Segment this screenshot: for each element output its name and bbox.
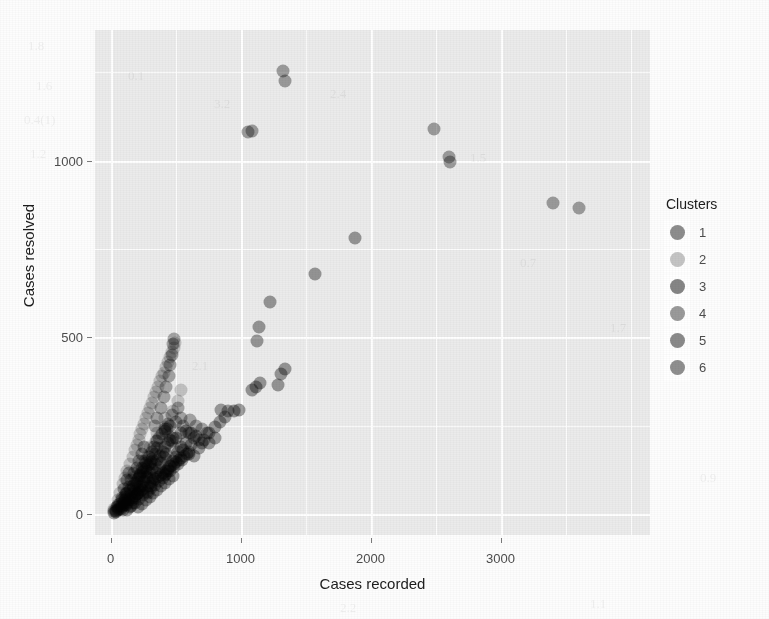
data-point bbox=[308, 267, 321, 280]
data-point bbox=[278, 363, 291, 376]
data-point bbox=[546, 197, 559, 210]
x-tick-label: 3000 bbox=[486, 551, 515, 566]
data-point bbox=[174, 384, 187, 397]
legend-title: Clusters bbox=[666, 196, 717, 212]
data-point bbox=[254, 377, 267, 390]
legend-item-1[interactable]: 1 bbox=[664, 219, 717, 246]
data-point bbox=[233, 403, 246, 416]
data-point bbox=[208, 431, 221, 444]
data-point bbox=[348, 232, 361, 245]
x-tick-mark bbox=[371, 538, 372, 543]
legend-dot-icon bbox=[670, 279, 685, 294]
legend-dot-icon bbox=[670, 333, 685, 348]
data-point bbox=[246, 124, 259, 137]
ghost-mark: 1.6 bbox=[36, 78, 52, 94]
y-tick-mark bbox=[87, 337, 92, 338]
legend-item-4[interactable]: 4 bbox=[664, 300, 717, 327]
data-point bbox=[443, 156, 456, 169]
legend-key-swatch bbox=[664, 274, 690, 300]
y-tick-mark bbox=[87, 161, 92, 162]
legend-key-swatch bbox=[664, 220, 690, 246]
data-point bbox=[428, 122, 441, 135]
data-point bbox=[572, 202, 585, 215]
legend-item-label: 5 bbox=[699, 333, 706, 348]
x-tick-label: 1000 bbox=[226, 551, 255, 566]
y-tick-mark bbox=[87, 514, 92, 515]
legend-key-swatch bbox=[664, 328, 690, 354]
legend-item-5[interactable]: 5 bbox=[664, 327, 717, 354]
legend-item-label: 4 bbox=[699, 306, 706, 321]
y-axis-title: Cases resolved bbox=[20, 166, 37, 346]
data-point bbox=[183, 445, 196, 458]
legend-key-swatch bbox=[664, 355, 690, 381]
vertical-gridline bbox=[566, 30, 567, 535]
vertical-gridline bbox=[241, 30, 243, 535]
legend-dot-icon bbox=[670, 306, 685, 321]
x-tick-label: 2000 bbox=[356, 551, 385, 566]
vertical-gridline bbox=[111, 30, 113, 535]
legend-item-label: 2 bbox=[699, 252, 706, 267]
data-point bbox=[272, 378, 285, 391]
scatter-plot-figure: 010002000300005001000 Cases recorded Cas… bbox=[0, 0, 769, 619]
legend-item-6[interactable]: 6 bbox=[664, 354, 717, 381]
legend-item-2[interactable]: 2 bbox=[664, 246, 717, 273]
data-point bbox=[279, 75, 292, 88]
legend-item-label: 6 bbox=[699, 360, 706, 375]
ghost-mark: 2.2 bbox=[340, 600, 356, 616]
horizontal-gridline bbox=[95, 161, 650, 163]
legend: Clusters 123456 bbox=[664, 196, 717, 381]
data-point bbox=[253, 320, 266, 333]
legend-item-label: 3 bbox=[699, 279, 706, 294]
legend-key-swatch bbox=[664, 247, 690, 273]
data-point bbox=[264, 295, 277, 308]
data-point bbox=[168, 333, 181, 346]
vertical-gridline bbox=[371, 30, 373, 535]
x-tick-mark bbox=[111, 538, 112, 543]
y-tick-label: 0 bbox=[17, 506, 83, 521]
data-point bbox=[251, 334, 264, 347]
vertical-gridline bbox=[436, 30, 437, 535]
legend-dot-icon bbox=[670, 360, 685, 375]
horizontal-gridline bbox=[95, 72, 650, 73]
vertical-gridline bbox=[501, 30, 503, 535]
x-tick-label: 0 bbox=[107, 551, 114, 566]
ghost-mark: 1.1 bbox=[590, 596, 606, 612]
ghost-mark: 1.8 bbox=[28, 38, 44, 54]
ghost-mark: 0.9 bbox=[700, 470, 716, 486]
horizontal-gridline bbox=[95, 514, 650, 516]
vertical-gridline bbox=[631, 30, 632, 535]
data-point bbox=[166, 431, 179, 444]
horizontal-gridline bbox=[95, 249, 650, 250]
legend-key-swatch bbox=[664, 301, 690, 327]
x-tick-mark bbox=[501, 538, 502, 543]
x-tick-mark bbox=[241, 538, 242, 543]
vertical-gridline bbox=[306, 30, 307, 535]
legend-rows: 123456 bbox=[664, 219, 717, 381]
legend-dot-icon bbox=[670, 225, 685, 240]
legend-dot-icon bbox=[670, 252, 685, 267]
plot-panel bbox=[95, 30, 650, 535]
legend-item-label: 1 bbox=[699, 225, 706, 240]
data-point bbox=[215, 403, 228, 416]
x-axis-title: Cases recorded bbox=[95, 575, 650, 592]
data-point bbox=[163, 419, 176, 432]
legend-item-3[interactable]: 3 bbox=[664, 273, 717, 300]
ghost-mark: 0.4(1) bbox=[24, 112, 55, 128]
